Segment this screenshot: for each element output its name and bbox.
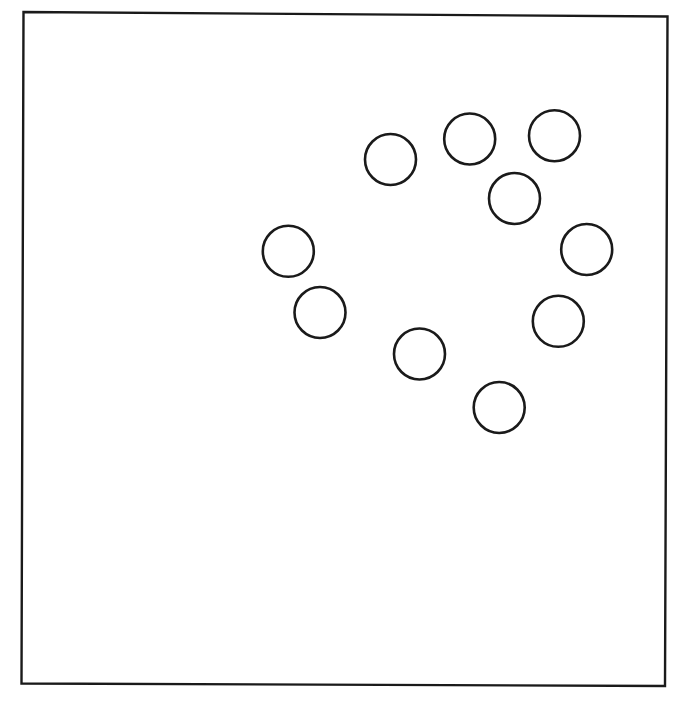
- background: [0, 0, 692, 705]
- diagram-canvas: [0, 0, 692, 705]
